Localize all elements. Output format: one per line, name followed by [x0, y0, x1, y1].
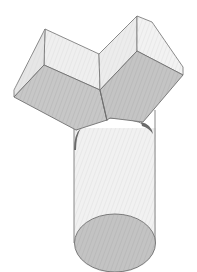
right-box [99, 16, 183, 122]
cylinder [74, 110, 156, 272]
left-box [14, 29, 107, 130]
y-shape-drawing [0, 0, 197, 272]
